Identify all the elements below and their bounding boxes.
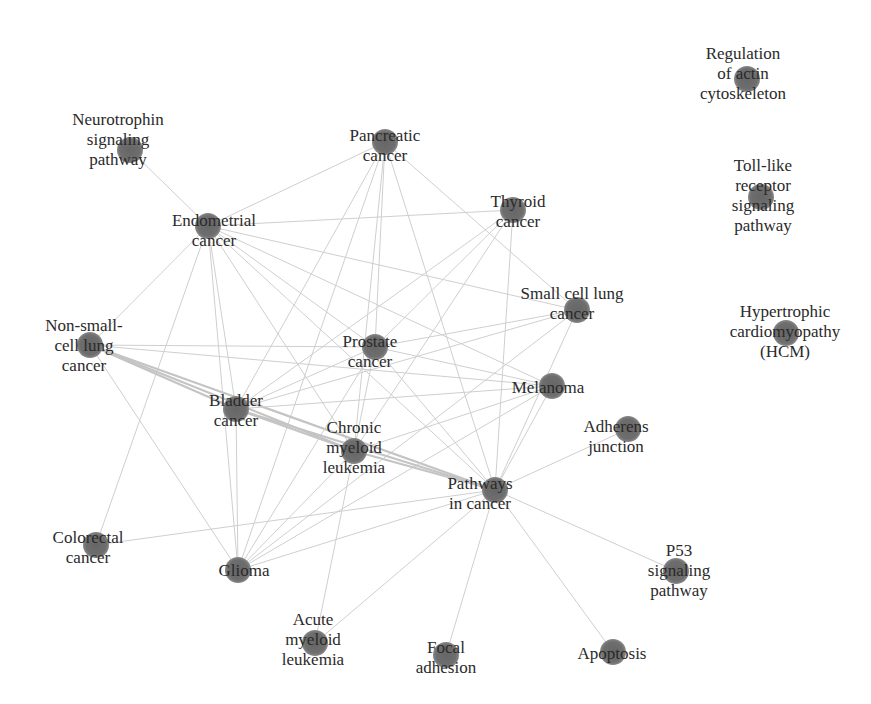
node-label-line: receptor [732, 176, 794, 196]
node-label-pathways_cancer: Pathwaysin cancer [447, 474, 512, 514]
node-label-line: cancer [53, 548, 124, 568]
node-label-neurotrophin: Neurotrophinsignalingpathway [72, 110, 164, 170]
node-label-small_cell: Small cell lungcancer [521, 284, 624, 324]
node-label-line: signaling [648, 561, 710, 581]
node-label-line: pathway [648, 581, 710, 601]
edge-melanoma-bladder [236, 386, 552, 409]
edge-non_small_cell-prostate [90, 345, 375, 347]
node-label-line: Glioma [219, 561, 270, 581]
edge-small_cell-glioma [238, 310, 577, 570]
node-label-line: Hypertrophic [730, 302, 840, 322]
node-label-line: cancer [343, 352, 398, 372]
node-label-line: Neurotrophin [72, 110, 164, 130]
node-label-cml: Chronicmyeloidleukemia [323, 418, 385, 478]
node-label-hcm: Hypertrophiccardiomyopathy(HCM) [730, 302, 840, 362]
node-label-bladder: Bladdercancer [209, 391, 263, 431]
node-label-line: leukemia [323, 458, 385, 478]
network-diagram: NeurotrophinsignalingpathwayEndometrialc… [0, 0, 871, 704]
node-label-line: cancer [45, 356, 122, 376]
edge-pancreatic-prostate [375, 142, 385, 347]
node-label-tlr: Toll-likereceptorsignalingpathway [732, 156, 794, 236]
node-label-line: cancer [491, 212, 546, 232]
node-label-line: Colorectal [53, 528, 124, 548]
node-label-line: Small cell lung [521, 284, 624, 304]
node-label-prostate: Prostatecancer [343, 332, 398, 372]
node-label-p53: P53signalingpathway [648, 541, 710, 601]
edge-pathways_cancer-apoptosis [495, 490, 613, 652]
node-label-line: cardiomyopathy [730, 322, 840, 342]
node-label-line: adhesion [416, 658, 476, 678]
node-label-thyroid: Thyroidcancer [491, 192, 546, 232]
node-label-line: Non-small- [45, 316, 122, 336]
node-label-line: Regulation [700, 44, 786, 64]
node-label-line: Toll-like [732, 156, 794, 176]
node-label-melanoma: Melanoma [512, 378, 585, 398]
node-label-line: cancer [350, 146, 421, 166]
node-label-aml: Acutemyeloidleukemia [282, 610, 344, 670]
node-label-line: cancer [209, 411, 263, 431]
node-label-line: Thyroid [491, 192, 546, 212]
node-label-line: Melanoma [512, 378, 585, 398]
node-label-adherens: Adherensjunction [583, 417, 648, 457]
node-label-line: Adherens [583, 417, 648, 437]
node-label-line: cancer [172, 231, 256, 251]
node-label-glioma: Glioma [219, 561, 270, 581]
node-label-line: cell lung [45, 336, 122, 356]
node-label-apoptosis: Apoptosis [578, 644, 647, 664]
node-label-line: Acute [282, 610, 344, 630]
node-label-line: pathway [72, 150, 164, 170]
node-label-line: Bladder [209, 391, 263, 411]
node-label-line: Endometrial [172, 211, 256, 231]
node-label-line: P53 [648, 541, 710, 561]
node-label-line: Pancreatic [350, 126, 421, 146]
node-label-line: Prostate [343, 332, 398, 352]
node-label-focal: Focaladhesion [416, 638, 476, 678]
node-label-line: Apoptosis [578, 644, 647, 664]
edge-pathways_cancer-focal [446, 490, 495, 655]
node-label-line: Pathways [447, 474, 512, 494]
node-label-colorectal: Colorectalcancer [53, 528, 124, 568]
node-label-line: (HCM) [730, 342, 840, 362]
node-label-actin: Regulationof actincytoskeleton [700, 44, 786, 104]
edge-small_cell-pathways_cancer [495, 310, 577, 490]
node-label-line: pathway [732, 216, 794, 236]
node-label-line: Chronic [323, 418, 385, 438]
node-label-pancreatic: Pancreaticcancer [350, 126, 421, 166]
node-label-line: of actin [700, 64, 786, 84]
node-label-line: junction [583, 437, 648, 457]
node-label-line: cytoskeleton [700, 84, 786, 104]
edge-thyroid-cml [354, 210, 513, 451]
node-label-non_small_cell: Non-small-cell lungcancer [45, 316, 122, 376]
node-label-line: cancer [521, 304, 624, 324]
node-label-line: myeloid [323, 438, 385, 458]
node-label-line: myeloid [282, 630, 344, 650]
edge-thyroid-pathways_cancer [495, 210, 513, 490]
node-label-line: Focal [416, 638, 476, 658]
node-label-line: in cancer [447, 494, 512, 514]
node-label-line: signaling [72, 130, 164, 150]
node-label-line: signaling [732, 196, 794, 216]
node-label-line: leukemia [282, 650, 344, 670]
node-label-endometrial: Endometrialcancer [172, 211, 256, 251]
